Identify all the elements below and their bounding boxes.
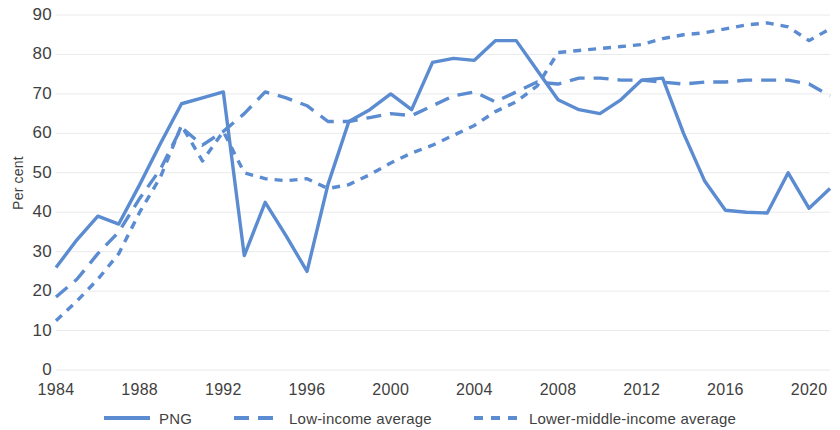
x-axis-tick-label: 2020: [791, 381, 828, 399]
legend-label: Low-income average: [289, 410, 432, 427]
legend-item-0[interactable]: PNG: [104, 410, 192, 427]
legend-label: Lower-middle-income average: [529, 410, 736, 427]
x-axis-tick-label: 1996: [289, 381, 326, 399]
x-axis-tick-label: 1992: [205, 381, 242, 399]
x-axis-tick-label: 2008: [540, 381, 577, 399]
x-axis-tick-label: 2000: [372, 381, 409, 399]
series-line-2: [56, 23, 830, 321]
chart-legend: PNGLow-income averageLower-middle-income…: [0, 406, 840, 430]
x-axis-tick-label: 1984: [38, 381, 75, 399]
series-line-0: [56, 41, 830, 272]
x-axis-tick-label: 1988: [121, 381, 158, 399]
x-axis-tick-label: 2004: [456, 381, 493, 399]
legend-swatch-icon: [474, 416, 520, 420]
legend-item-1[interactable]: Low-income average: [234, 410, 432, 427]
legend-item-2[interactable]: Lower-middle-income average: [474, 410, 736, 427]
x-axis-tick-label: 2012: [623, 381, 660, 399]
legend-swatch-icon: [234, 416, 280, 420]
line-chart: Per cent 0102030405060708090 19841988199…: [0, 0, 840, 430]
series-line-1: [56, 78, 830, 297]
plot-area: [0, 0, 840, 430]
legend-label: PNG: [159, 410, 192, 427]
legend-swatch-icon: [104, 416, 150, 420]
x-axis-tick-label: 2016: [707, 381, 744, 399]
